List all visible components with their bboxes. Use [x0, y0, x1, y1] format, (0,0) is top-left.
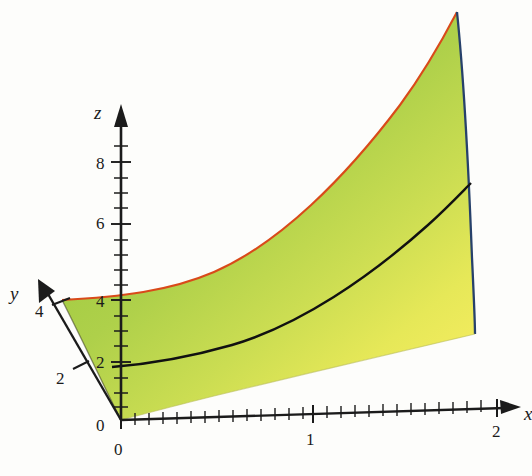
y-axis-label: y: [10, 284, 18, 303]
z-tick-label-4: 4: [96, 293, 105, 310]
plot-canvas: [0, 0, 532, 476]
x-tick-label-1: 1: [306, 431, 315, 448]
x-axis-arrowhead: [500, 400, 521, 414]
surface-plot-figure: z y x 8 6 4 2 0 4 2 0 1 2: [0, 0, 532, 476]
z-axis-arrowhead: [114, 104, 128, 127]
y-tick-label-2: 2: [56, 370, 65, 387]
x-axis-label: x: [524, 404, 532, 423]
z-axis-label: z: [94, 103, 101, 122]
z-tick-label-0: 0: [96, 417, 105, 434]
x-tick-label-2: 2: [492, 423, 501, 440]
surface-fill: [62, 12, 475, 420]
z-tick-label-8: 8: [96, 155, 105, 172]
z-tick-label-2: 2: [96, 354, 105, 371]
z-tick-label-6: 6: [96, 215, 105, 232]
surface-body: [62, 12, 475, 420]
y-tick-label-4: 4: [35, 303, 44, 320]
x-tick-label-0: 0: [114, 441, 123, 458]
